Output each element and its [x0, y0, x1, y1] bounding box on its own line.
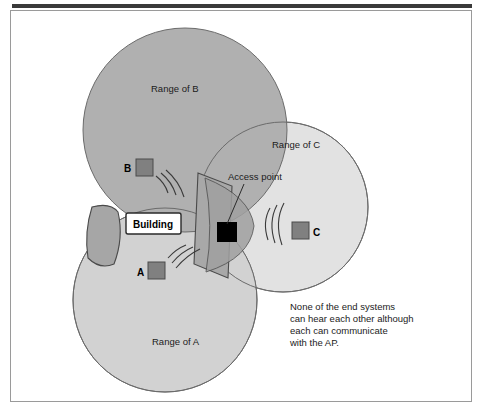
figure-canvas: Range of B Range of A Range of C Access … [0, 0, 482, 410]
building-wall-left [87, 205, 121, 266]
station-b-node[interactable] [136, 159, 153, 176]
range-c-label: Range of C [272, 139, 320, 150]
wireless-lan-diagram: Range of B Range of A Range of C Access … [0, 0, 482, 410]
caption-block: None of the end systems can hear each ot… [289, 301, 414, 348]
range-b-label: Range of B [151, 83, 199, 94]
station-a-label: A [137, 267, 144, 278]
access-point-label: Access point [228, 171, 282, 182]
access-point-node[interactable] [217, 222, 237, 242]
station-b-label: B [124, 163, 131, 174]
caption-line-3: each can communicate [290, 325, 388, 336]
station-a-node[interactable] [148, 262, 165, 279]
station-c-label: C [313, 227, 320, 238]
station-c-node[interactable] [292, 222, 309, 239]
range-b-circle [83, 28, 287, 232]
caption-line-4: with the AP. [289, 337, 339, 348]
caption-line-2: can hear each other although [290, 313, 414, 324]
building-label: Building [133, 219, 173, 230]
caption-line-1: None of the end systems [290, 301, 395, 312]
range-a-label: Range of A [152, 336, 200, 347]
